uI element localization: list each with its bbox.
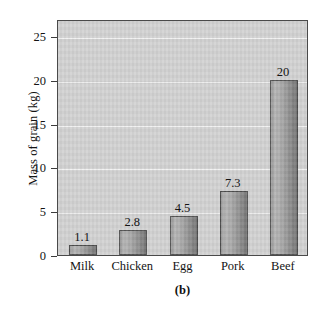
bar-egg: [170, 216, 198, 255]
y-tick-label: 25: [6, 31, 46, 44]
bar-chart-figure: Mass of grain (kg) 0510152025 MilkChicke…: [0, 0, 331, 312]
gridline: [58, 38, 307, 39]
bar-milk: [69, 245, 97, 255]
x-label-beef: Beef: [248, 259, 318, 274]
bar-beef: [270, 80, 298, 255]
y-tick-label: 20: [6, 75, 46, 88]
bar-value-chicken: 2.8: [107, 216, 157, 229]
y-tick-label: 5: [6, 206, 46, 219]
plot-area: [57, 20, 308, 256]
figure-caption: (b): [57, 283, 308, 298]
bar-value-egg: 4.5: [158, 202, 208, 215]
bar-value-beef: 20: [258, 66, 308, 79]
y-tick-label: 0: [6, 250, 46, 263]
y-tick-label: 10: [6, 162, 46, 175]
bar-value-milk: 1.1: [57, 231, 107, 244]
bar-chicken: [119, 230, 147, 255]
y-tick-label: 15: [6, 119, 46, 132]
bar-pork: [220, 191, 248, 255]
y-tick-mark: [51, 256, 57, 257]
bar-value-pork: 7.3: [208, 177, 258, 190]
